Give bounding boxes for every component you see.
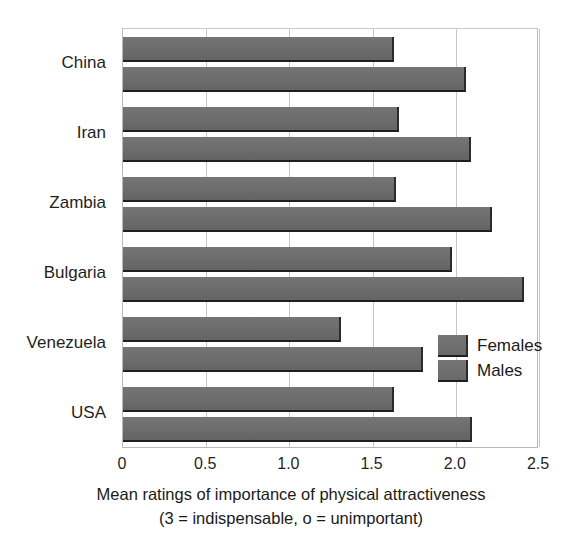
bar bbox=[123, 177, 396, 202]
y-axis-label-china: China bbox=[62, 54, 106, 71]
bar bbox=[123, 207, 492, 232]
bar bbox=[123, 37, 394, 62]
bar bbox=[123, 317, 341, 342]
bar bbox=[123, 387, 394, 412]
x-axis-title: Mean ratings of importance of physical a… bbox=[0, 484, 582, 505]
x-axis-tick-label: 1.0 bbox=[277, 455, 299, 473]
x-axis-tick-label: 1.5 bbox=[360, 455, 382, 473]
bar bbox=[123, 107, 399, 132]
legend-item: Males bbox=[438, 358, 542, 383]
y-axis-label-bulgaria: Bulgaria bbox=[44, 264, 106, 281]
bar bbox=[123, 247, 452, 272]
bar bbox=[123, 67, 466, 92]
legend-swatch-icon bbox=[438, 360, 468, 382]
bar bbox=[123, 417, 472, 442]
gridline bbox=[539, 29, 540, 447]
y-axis-label-iran: Iran bbox=[77, 124, 106, 141]
plot-area bbox=[122, 28, 538, 448]
y-axis-label-zambia: Zambia bbox=[49, 194, 106, 211]
legend-label: Males bbox=[477, 362, 522, 380]
bar bbox=[123, 277, 524, 302]
legend-label: Females bbox=[477, 337, 542, 355]
legend-swatch-icon bbox=[438, 335, 468, 357]
bar bbox=[123, 137, 471, 162]
legend: FemalesMales bbox=[438, 333, 542, 383]
x-axis-title-subtext: (3 = indispensable, o = unimportant) bbox=[0, 508, 582, 529]
bar-chart: ChinaIranZambiaBulgariaVenezuelaUSA 00.5… bbox=[0, 0, 582, 550]
x-axis-tick-label: 0.5 bbox=[194, 455, 216, 473]
bar bbox=[123, 347, 423, 372]
bars-layer bbox=[123, 29, 537, 447]
y-axis-label-usa: USA bbox=[71, 404, 106, 421]
y-axis-label-venezuela: Venezuela bbox=[27, 334, 106, 351]
x-axis-tick-label: 2.5 bbox=[527, 455, 549, 473]
x-axis-tick-label: 0 bbox=[118, 455, 127, 473]
y-axis-category-labels: ChinaIranZambiaBulgariaVenezuelaUSA bbox=[0, 28, 114, 448]
x-axis-tick-labels: 00.51.01.52.02.5 bbox=[122, 455, 538, 479]
x-axis-tick-label: 2.0 bbox=[444, 455, 466, 473]
legend-item: Females bbox=[438, 333, 542, 358]
